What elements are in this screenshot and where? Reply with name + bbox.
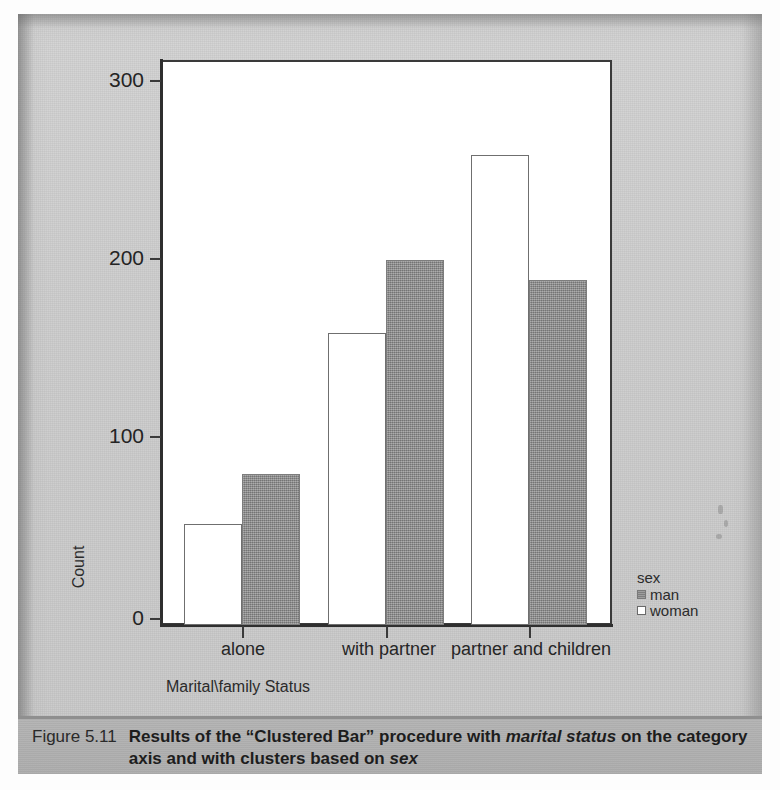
clustered-bar-chart: 300 200 100 0 Count alone with partner p…	[0, 0, 780, 716]
x-tick-partner-and-children	[529, 626, 531, 638]
legend-label-woman: woman	[650, 603, 698, 618]
legend: sex man woman	[637, 570, 747, 618]
legend-swatch-man-icon	[637, 590, 646, 599]
caption-emphasis-sex: sex	[389, 749, 417, 768]
caption-emphasis-marital-status: marital status	[506, 727, 617, 746]
figure-number: Figure 5.11	[32, 726, 117, 747]
legend-label-man: man	[650, 587, 679, 602]
bar-alone-woman	[184, 524, 242, 625]
x-label-partner-and-children: partner and children	[451, 639, 611, 660]
legend-item-woman: woman	[637, 603, 747, 618]
bar-with-partner-man	[386, 260, 444, 625]
figure-caption-text: Results of the “Clustered Bar” procedure…	[129, 726, 752, 770]
y-axis-line	[160, 59, 163, 627]
x-axis-title: Marital\family Status	[166, 678, 310, 696]
x-label-with-partner: with partner	[342, 639, 436, 660]
caption-segment-1: Results of the “Clustered Bar” procedure…	[129, 727, 506, 746]
y-tick-label-100: 100	[78, 424, 144, 448]
y-axis-title: Count	[70, 522, 88, 612]
bar-alone-man	[242, 474, 300, 625]
figure-screenshot: 300 200 100 0 Count alone with partner p…	[0, 0, 780, 790]
y-tick-300	[150, 80, 161, 82]
y-tick-100	[150, 436, 161, 438]
x-label-alone: alone	[221, 639, 265, 660]
bar-with-partner-woman	[328, 333, 386, 625]
figure-caption: Figure 5.11 Results of the “Clustered Ba…	[32, 726, 752, 770]
bar-partner-and-children-woman	[471, 155, 529, 625]
legend-item-man: man	[637, 587, 747, 602]
legend-swatch-woman-icon	[637, 606, 646, 615]
bar-partner-and-children-man	[529, 280, 587, 625]
legend-title: sex	[637, 570, 747, 585]
y-tick-0	[150, 618, 161, 620]
figure-caption-band: Figure 5.11 Results of the “Clustered Ba…	[18, 716, 762, 774]
y-tick-label-300: 300	[78, 68, 144, 92]
y-tick-200	[150, 258, 161, 260]
x-tick-with-partner	[386, 626, 388, 638]
y-tick-label-200: 200	[78, 246, 144, 270]
x-tick-alone	[242, 626, 244, 638]
